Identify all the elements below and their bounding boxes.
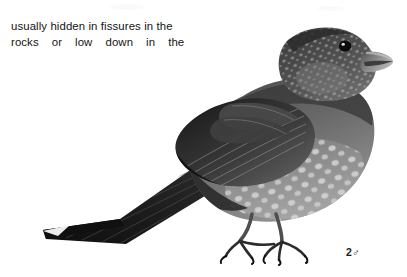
figure-caption: 2♂ bbox=[346, 246, 360, 258]
word: or bbox=[52, 34, 62, 50]
word: the bbox=[168, 34, 184, 50]
word: down bbox=[105, 34, 133, 50]
body-text-block: usually hidden in fissures in the rockso… bbox=[11, 18, 211, 50]
bird-beak bbox=[360, 52, 393, 72]
word: low bbox=[75, 34, 92, 50]
body-text-line-2: rocksorlowdowninthe bbox=[11, 34, 211, 50]
bird-feet bbox=[226, 241, 305, 260]
bird-eye bbox=[339, 40, 351, 51]
body-text-line-1: usually hidden in fissures in the bbox=[11, 18, 211, 34]
word: in bbox=[146, 34, 155, 50]
bird-claws bbox=[221, 256, 308, 265]
bird-tail bbox=[43, 166, 218, 248]
plate-page: usually hidden in fissures in the rockso… bbox=[0, 0, 407, 277]
word: rocks bbox=[11, 34, 39, 50]
